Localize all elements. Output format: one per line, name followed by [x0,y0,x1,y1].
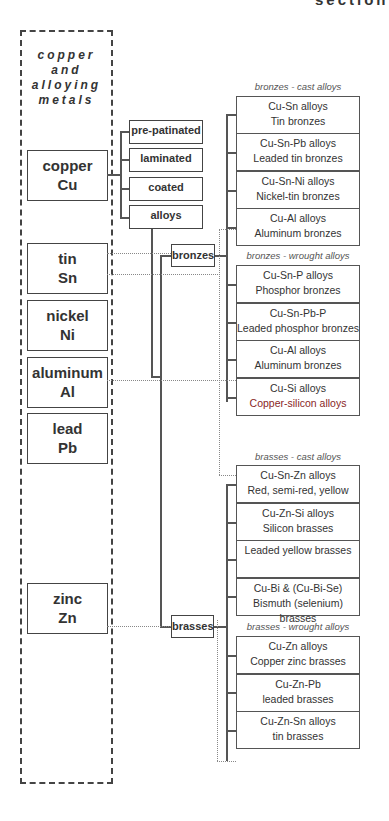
alloy-name: Copper-silicon alloys [237,396,359,411]
alloy-code: Cu-Zn-Si alloys [237,506,359,521]
alloy-code: Cu-Al alloys [237,211,359,226]
element-aluminum: aluminum Al [27,357,108,408]
element-tin: tin Sn [27,243,108,294]
element-name: aluminum [28,363,107,382]
family-bronzes: bronzes [171,244,215,267]
alloy-box: Cu-Zn-Sn alloys tin brasses [236,711,360,749]
group-label-bronzes-cast: bronzes - cast alloys [236,81,360,92]
connector-line [226,692,236,694]
alloy-code: Cu-Sn-Ni alloys [237,174,359,189]
title-line: copper [20,48,113,63]
connector-line [226,322,236,324]
form-pre-patinated: pre-patinated [129,120,203,144]
element-name: lead [28,419,107,438]
form-coated: coated [129,177,203,201]
element-name: zinc [28,589,107,608]
element-symbol: Ni [28,325,107,344]
aluminum-dotted-line [107,380,236,381]
alloy-box: Cu-Al alloys Aluminum bronzes [236,340,360,378]
alloy-code: Cu-Zn-Pb [237,677,359,692]
element-symbol: Pb [28,438,107,457]
alloy-box: Cu-Zn alloys Copper zinc brasses [236,636,360,674]
group-label-bronzes-wrought: bronzes - wrought alloys [236,250,360,261]
alloy-box: Cu-Sn-Ni alloys Nickel-tin bronzes [236,171,360,209]
alloy-box: Cu-Zn-Si alloys Silicon brasses [236,503,360,541]
alloy-code: Cu-Sn-Pb-P [237,306,359,321]
dotted-line [217,620,218,761]
connector-line [120,217,129,219]
connector-line [226,359,236,361]
dotted-line [219,229,220,475]
alloy-code: Cu-Bi & (Cu-Bi-Se) [237,581,359,596]
connector-line [160,255,171,257]
partial-page-header: section [315,0,389,8]
element-symbol: Al [28,382,107,401]
alloy-name: Silicon brasses [237,521,359,536]
connector-line [160,255,162,627]
alloy-name: Phosphor bronzes [237,283,359,298]
element-zinc: zinc Zn [27,583,108,634]
alloy-box: Cu-Bi & (Cu-Bi-Se) Bismuth (selenium) br… [236,578,360,616]
alloy-code: Cu-Sn alloys [237,99,359,114]
alloy-code: Cu-Si alloys [237,381,359,396]
alloy-code: Cu-Sn-Pb alloys [237,136,359,151]
alloy-box: Cu-Si alloys Copper-silicon alloys [236,378,360,416]
group-label-brasses-cast: brasses - cast alloys [236,451,360,462]
connector-line [226,114,236,116]
alloy-box: Cu-Sn-P alloys Phosphor bronzes [236,265,360,303]
alloy-box: Cu-Sn-Zn alloys Red, semi-red, yellow [236,465,360,503]
element-symbol: Cu [28,175,107,194]
connector-line [151,229,153,377]
alloy-name: Leaded tin bronzes [237,151,359,166]
connector-line [226,484,228,761]
alloy-name: Bismuth (selenium) brasses [237,596,359,626]
alloy-code: Cu-Sn-Zn alloys [237,468,359,483]
title-line: and [20,63,113,78]
connector-line [226,730,236,732]
element-name: copper [28,156,107,175]
alloy-code: Cu-Zn-Sn alloys [237,714,359,729]
connector-line [226,484,236,486]
connector-line [151,376,160,378]
alloy-code: Leaded yellow brasses [237,543,359,558]
tin-to-bronzes-dotted-line [107,253,171,254]
alloy-name: tin brasses [237,729,359,744]
element-copper: copper Cu [27,150,108,201]
alloy-name: leaded brasses [237,692,359,707]
alloy-box: Cu-Al alloys Aluminum bronzes [236,208,360,246]
element-name: nickel [28,306,107,325]
connector-line [226,596,236,598]
alloy-box: Cu-Sn-Pb alloys Leaded tin bronzes [236,133,360,171]
dotted-line [219,475,236,476]
elements-panel-title: copper and alloying metals [20,48,113,108]
form-alloys: alloys [129,205,203,229]
alloy-box: Cu-Sn-Pb-P Leaded phosphor bronzes [236,303,360,341]
family-brasses: brasses [171,615,214,638]
connector-line [226,397,236,399]
element-lead: lead Pb [27,413,108,464]
connector-line [226,284,236,286]
alloy-code: Cu-Al alloys [237,343,359,358]
connector-line [120,131,129,133]
zinc-to-brasses-dotted-line [107,626,171,627]
alloy-box: Leaded yellow brasses [236,540,360,578]
alloy-name: Nickel-tin bronzes [237,189,359,204]
form-laminated: laminated [129,148,203,172]
element-nickel: nickel Ni [27,300,108,351]
alloy-code: Cu-Sn-P alloys [237,268,359,283]
title-line: metals [20,93,113,108]
connector-line [226,559,236,561]
element-name: tin [28,249,107,268]
tin-dotted-line [107,274,220,275]
dotted-line [219,229,236,230]
alloy-box: Cu-Sn alloys Tin bronzes [236,96,360,134]
alloy-name: Aluminum bronzes [237,358,359,373]
alloy-name: Tin bronzes [237,114,359,129]
connector-line [120,188,129,190]
dotted-line [217,761,236,762]
connector-line [120,131,122,218]
element-symbol: Zn [28,608,107,627]
connector-line [226,655,236,657]
title-line: alloying [20,78,113,93]
alloy-name: Copper zinc brasses [237,654,359,669]
